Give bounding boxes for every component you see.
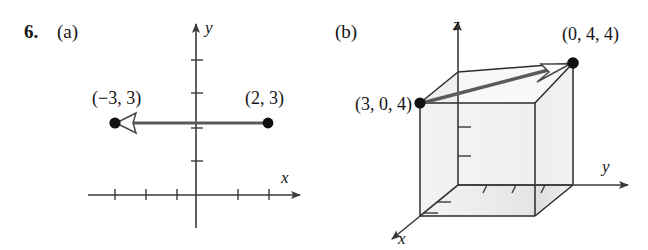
problem-number: 6.	[24, 21, 38, 42]
coord-label-2-3: (2, 3)	[245, 88, 284, 109]
figure-container: 6. (a) (−3, 3) (2, 3) x y	[0, 0, 648, 250]
part-a-group: 6. (a) (−3, 3) (2, 3) x y	[24, 18, 300, 228]
x-axis-label-a: x	[280, 168, 289, 187]
part-a-label: (a)	[57, 21, 78, 43]
coord-label-0-4-4: (0, 4, 4)	[562, 24, 619, 45]
x-axis-label-b: x	[397, 229, 406, 248]
y-axis-ticks	[191, 60, 203, 161]
part-b-label: (b)	[335, 21, 357, 43]
part-b-group: (b) (3, 0, 4) (0, 4, 4) y z x	[335, 15, 628, 248]
point-dot-3-0-4	[414, 97, 425, 108]
y-axis-label-b: y	[600, 157, 610, 176]
point-dot-2-3	[263, 118, 274, 129]
y-axis-label-a: y	[203, 18, 213, 37]
coord-label-neg3-3: (−3, 3)	[92, 88, 141, 109]
coord-label-3-0-4: (3, 0, 4)	[355, 94, 412, 115]
z-axis-label-b: z	[452, 15, 460, 34]
figure-svg: 6. (a) (−3, 3) (2, 3) x y	[0, 0, 648, 250]
point-dot-neg3-3	[109, 117, 120, 128]
point-dot-0-4-4	[567, 57, 579, 69]
